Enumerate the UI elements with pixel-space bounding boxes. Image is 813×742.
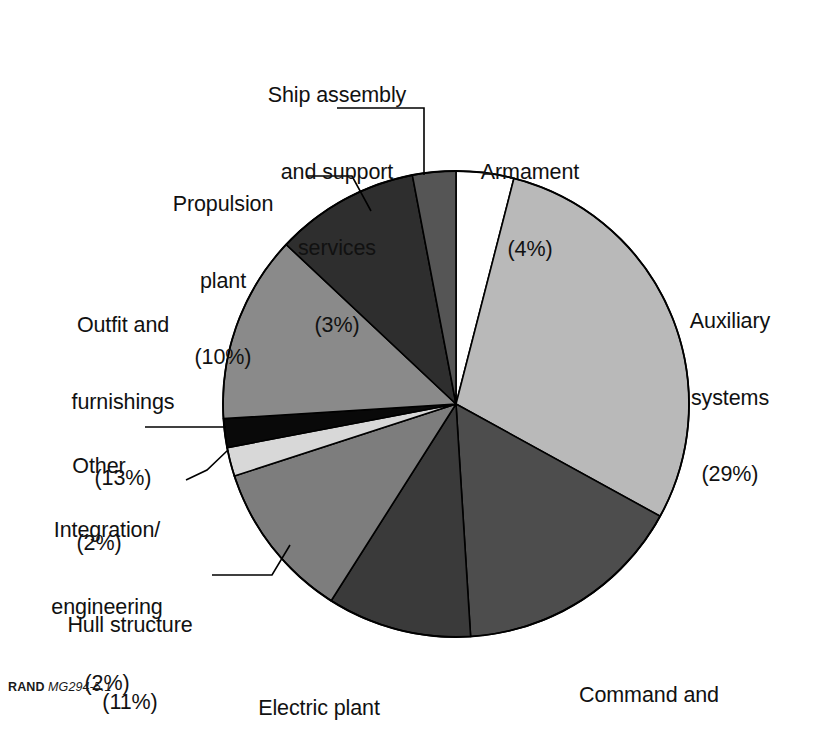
label-command-line1: Command and <box>549 683 749 709</box>
label-ship-assembly-line1: Ship assembly <box>224 83 450 109</box>
label-propulsion-line2: plant <box>140 269 306 295</box>
source-prefix: RAND <box>8 680 45 694</box>
label-armament-pct: (4%) <box>440 237 620 263</box>
label-electric-plant: Electric plant (10%) <box>224 645 414 742</box>
label-propulsion-pct: (10%) <box>140 345 306 371</box>
source-id: MG294-5.1 <box>48 680 111 694</box>
pie-chart-figure: Armament (4%)Auxiliary systems (29%)Comm… <box>0 0 813 742</box>
label-armament-line1: Armament <box>440 160 620 186</box>
label-auxiliary-pct: (29%) <box>655 462 805 488</box>
label-auxiliary-systems: Auxiliary systems (29%) <box>655 258 805 539</box>
label-armament: Armament (4%) <box>440 109 620 313</box>
label-propulsion-plant: Propulsion plant (10%) <box>140 141 306 422</box>
label-propulsion-line1: Propulsion <box>140 192 306 218</box>
label-outfit-pct: (13%) <box>28 466 218 492</box>
label-auxiliary-line1: Auxiliary <box>655 309 805 335</box>
label-command-surveillance: Command and surveillance (16%) <box>549 632 749 742</box>
figure-source-note: RAND MG294-5.1 <box>8 680 112 694</box>
label-electric-line1: Electric plant <box>224 696 414 722</box>
label-auxiliary-line2: systems <box>655 386 805 412</box>
